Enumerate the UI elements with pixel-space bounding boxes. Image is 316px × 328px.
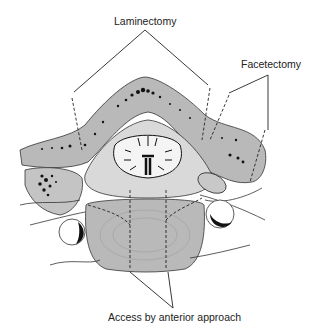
anterior-leader bbox=[130, 272, 173, 308]
anterior-approach-label: Access by anterior approach bbox=[108, 311, 241, 323]
facetectomy-leader bbox=[229, 75, 268, 130]
vertebra-diagram: Laminectomy Facetectomy Access by anteri… bbox=[0, 0, 316, 328]
vertebra-illustration bbox=[0, 0, 316, 328]
facetectomy-label: Facetectomy bbox=[241, 58, 301, 70]
left-facet bbox=[25, 168, 83, 215]
laminectomy-label: Laminectomy bbox=[114, 15, 176, 27]
